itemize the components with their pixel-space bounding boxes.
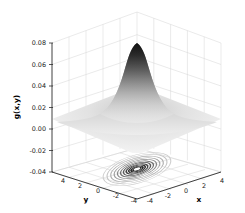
- z-tick-label: 0.02: [32, 104, 46, 112]
- y-axis-title: y: [84, 195, 89, 204]
- x-axis-title: x: [197, 195, 202, 204]
- z-tick-label: -0.02: [29, 147, 46, 155]
- z-tick-label: 0.00: [32, 125, 46, 133]
- y-tick-label: 0: [96, 187, 100, 195]
- z-tick-label: 0.04: [32, 82, 46, 90]
- z-tick-label: -0.04: [29, 168, 46, 176]
- x-tick-label: 4: [220, 177, 224, 185]
- x-tick-label: 2: [202, 182, 206, 190]
- x-tick-label: -4: [147, 197, 153, 205]
- y-tick-label: -2: [113, 192, 119, 200]
- z-tick-label: 0.06: [32, 61, 46, 69]
- z-tick-label: 0.08: [32, 39, 46, 47]
- figure-canvas: 0.08 0.06 0.04 0.02 0.00 -0.02 -0.04 4 2…: [0, 0, 245, 213]
- x-tick-label: 0: [184, 187, 188, 195]
- surface-plot: 0.08 0.06 0.04 0.02 0.00 -0.02 -0.04 4 2…: [0, 0, 245, 213]
- x-tick-label: -2: [165, 192, 171, 200]
- y-tick-label: 4: [61, 177, 65, 185]
- z-axis-title: g(x,y): [12, 95, 21, 119]
- y-tick-label: -4: [131, 197, 137, 205]
- y-tick-label: 2: [78, 182, 82, 190]
- z-tick-labels: 0.08 0.06 0.04 0.02 0.00 -0.02 -0.04: [29, 39, 46, 176]
